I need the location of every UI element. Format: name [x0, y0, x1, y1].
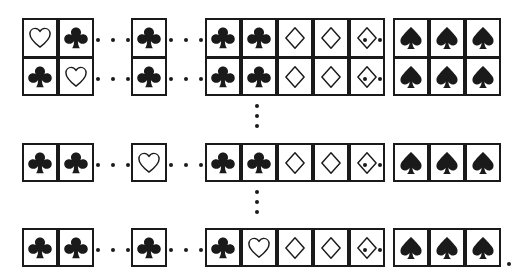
spade-filled-icon: [471, 25, 495, 51]
ellipsis-dot: [96, 77, 100, 81]
heart-outline-icon: [247, 235, 271, 261]
ellipsis-dot: [126, 38, 130, 42]
ellipsis-dot: [111, 38, 115, 42]
ellipsis-dot: [378, 163, 382, 167]
diamond-outline-icon: [319, 25, 343, 51]
ellipsis-dot: [378, 248, 382, 252]
card-club: [205, 18, 241, 57]
club-filled-icon: [28, 64, 52, 90]
club-filled-icon: [137, 64, 161, 90]
card-club: [131, 18, 167, 57]
ellipsis-dot: [96, 248, 100, 252]
ellipsis-dot: [363, 163, 367, 167]
ellipsis-dot: [255, 190, 259, 194]
card-club: [131, 57, 167, 96]
card-club: [22, 228, 58, 267]
card-club: [22, 143, 58, 182]
card-club: [205, 57, 241, 96]
card-spade: [429, 57, 465, 96]
card-club: [205, 228, 241, 267]
spade-filled-icon: [435, 25, 459, 51]
ellipsis-dot: [169, 163, 173, 167]
card-spade: [393, 57, 429, 96]
club-filled-icon: [64, 235, 88, 261]
ellipsis-dot: [96, 163, 100, 167]
ellipsis-dot: [111, 248, 115, 252]
diamond-outline-icon: [319, 150, 343, 176]
club-filled-icon: [28, 150, 52, 176]
club-filled-icon: [137, 235, 161, 261]
ellipsis-dot: [363, 38, 367, 42]
club-filled-icon: [137, 25, 161, 51]
card-spade: [465, 228, 501, 267]
ellipsis-dot: [184, 163, 188, 167]
ellipsis-dot: [169, 248, 173, 252]
ellipsis-dot: [184, 38, 188, 42]
ellipsis-dot: [255, 124, 259, 128]
horizontal-ellipsis: [169, 247, 203, 253]
ellipsis-dot: [199, 248, 203, 252]
vertical-ellipsis: [254, 190, 259, 214]
horizontal-ellipsis: [169, 37, 203, 43]
ellipsis-dot: [184, 248, 188, 252]
vertical-ellipsis: [254, 104, 259, 128]
card-club: [241, 18, 277, 57]
card-club: [22, 57, 58, 96]
diamond-outline-icon: [283, 235, 307, 261]
heart-outline-icon: [137, 150, 161, 176]
card-diamond: [313, 143, 349, 182]
ellipsis-dot: [378, 77, 382, 81]
club-filled-icon: [247, 25, 271, 51]
horizontal-ellipsis: [363, 76, 397, 82]
club-filled-icon: [211, 64, 235, 90]
card-spade: [393, 18, 429, 57]
card-diamond: [277, 57, 313, 96]
ellipsis-dot: [199, 163, 203, 167]
ellipsis-dot: [199, 38, 203, 42]
club-filled-icon: [211, 235, 235, 261]
ellipsis-dot: [111, 77, 115, 81]
horizontal-ellipsis: [96, 37, 130, 43]
card-club: [241, 57, 277, 96]
diamond-outline-icon: [319, 64, 343, 90]
ellipsis-dot: [96, 38, 100, 42]
card-heart: [22, 18, 58, 57]
horizontal-ellipsis: [96, 162, 130, 168]
horizontal-ellipsis: [363, 247, 397, 253]
horizontal-ellipsis: [169, 76, 203, 82]
card-diamond: [277, 228, 313, 267]
card-spade: [465, 18, 501, 57]
card-diamond: [313, 57, 349, 96]
spade-filled-icon: [471, 150, 495, 176]
horizontal-ellipsis: [363, 37, 397, 43]
club-filled-icon: [211, 150, 235, 176]
ellipsis-dot: [126, 163, 130, 167]
horizontal-ellipsis: [96, 76, 130, 82]
club-filled-icon: [247, 150, 271, 176]
card-club: [131, 228, 167, 267]
horizontal-ellipsis: [169, 162, 203, 168]
card-club: [58, 143, 94, 182]
card-diamond: [277, 143, 313, 182]
spade-filled-icon: [399, 150, 423, 176]
ellipsis-dot: [126, 248, 130, 252]
ellipsis-dot: [363, 248, 367, 252]
card-spade: [465, 143, 501, 182]
card-spade: [465, 57, 501, 96]
spade-filled-icon: [471, 64, 495, 90]
club-filled-icon: [64, 150, 88, 176]
card-heart: [131, 143, 167, 182]
club-filled-icon: [211, 25, 235, 51]
diamond-outline-icon: [283, 25, 307, 51]
ellipsis-dot: [255, 104, 259, 108]
card-club: [58, 228, 94, 267]
card-spade: [429, 143, 465, 182]
ellipsis-dot: [255, 210, 259, 214]
spade-filled-icon: [435, 235, 459, 261]
ellipsis-dot: [255, 114, 259, 118]
ellipsis-dot: [111, 163, 115, 167]
ellipsis-dot: [199, 77, 203, 81]
card-club: [58, 18, 94, 57]
spade-filled-icon: [435, 64, 459, 90]
card-spade: [429, 18, 465, 57]
